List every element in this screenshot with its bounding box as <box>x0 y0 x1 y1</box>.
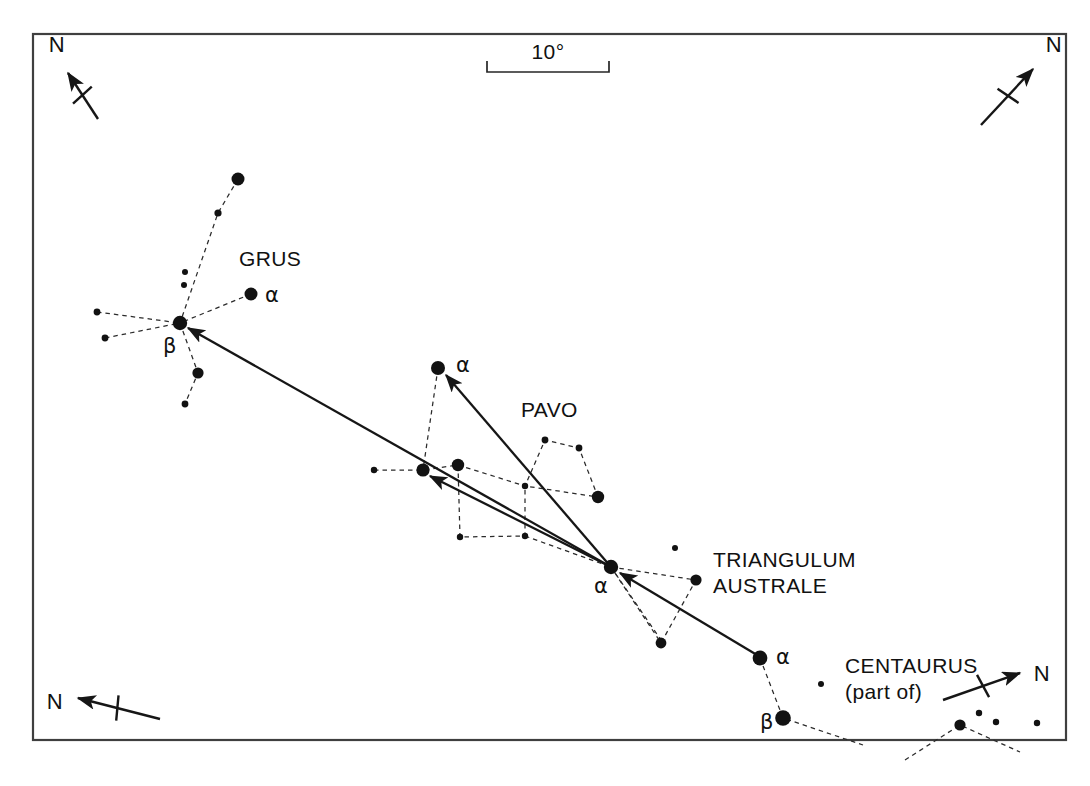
star-gru-tiny1 <box>182 269 188 275</box>
label-alpha-grus: α <box>265 283 279 307</box>
label-australe: AUSTRALE <box>713 574 827 597</box>
compass-top-left-label: N <box>49 32 65 57</box>
compass-top-right-arrow-icon <box>981 69 1033 125</box>
star-cen-e3 <box>993 719 999 725</box>
star-pav-hub <box>416 463 429 476</box>
scale-bar: 10° <box>487 40 609 72</box>
stars <box>94 173 1041 731</box>
scale-bar-label: 10° <box>532 40 565 63</box>
star-pav-q2 <box>576 445 583 452</box>
star-pav-hub2 <box>452 459 464 471</box>
label-beta-centaurus: β <box>760 710 774 734</box>
star-gru-south1 <box>192 367 203 378</box>
star-gru-beta <box>173 316 187 330</box>
star-pav-alpha <box>431 361 445 375</box>
star-gru-west1 <box>94 309 101 316</box>
star-cen-small1 <box>818 681 824 687</box>
star-chart-figure: 10° NNNN GRUSPAVOTRIANGULUMAUSTRALECENTA… <box>0 0 1090 786</box>
compass-top-right-tick <box>998 89 1019 103</box>
constellation-line-centaurus-12 <box>905 725 1020 760</box>
star-pav-q1 <box>542 437 549 444</box>
star-gru-alpha <box>245 288 258 301</box>
label-beta-grus: β <box>163 334 177 358</box>
star-gru-tiny2 <box>181 282 187 288</box>
star-gru-west2 <box>102 335 109 342</box>
pointer-vectors <box>188 328 757 655</box>
chart-labels: GRUSPAVOTRIANGULUMAUSTRALECENTAURUS(part… <box>163 247 978 734</box>
star-cen-alpha <box>753 651 768 666</box>
star-cen-e2 <box>976 710 982 716</box>
star-cen-e1 <box>954 719 965 730</box>
vector-tra-to-pav-hub <box>430 476 611 567</box>
constellation-line-grus-0 <box>180 179 238 323</box>
star-pav-q3 <box>592 491 604 503</box>
compass-top-left-tick <box>73 87 92 104</box>
chart-frame <box>33 34 1066 740</box>
label-centaurus: CENTAURUS <box>845 654 978 677</box>
sky-canvas: 10° NNNN GRUSPAVOTRIANGULUMAUSTRALECENTA… <box>0 0 1090 786</box>
star-tra-small <box>672 545 678 551</box>
label-alpha-centaurus: α <box>776 645 790 669</box>
compass-bottom-right-arrow-icon <box>943 673 1020 700</box>
constellation-line-grus-4 <box>180 323 198 404</box>
star-gru-top <box>232 173 245 186</box>
compass-bottom-right-tick <box>977 675 989 697</box>
constellation-line-centaurus-13 <box>611 567 663 643</box>
star-tra-b <box>690 574 701 585</box>
label-alpha-triangulum: α <box>594 574 608 598</box>
label-grus: GRUS <box>239 247 301 270</box>
star-pav-s1 <box>457 534 463 540</box>
star-gru-south2 <box>182 401 189 408</box>
compass-top-right-label: N <box>1046 32 1062 57</box>
constellation-line-grus-1 <box>97 312 180 323</box>
label-centaurus-part-of: (part of) <box>845 680 922 703</box>
star-cen-e4 <box>1034 720 1040 726</box>
label-triangulum: TRIANGULUM <box>713 548 856 571</box>
star-cen-beta <box>775 710 791 726</box>
star-pav-s2 <box>522 533 528 539</box>
star-gru-chain1 <box>214 209 221 216</box>
constellation-line-triangulum-australe-10 <box>611 567 696 643</box>
compass-bottom-right-label: N <box>1034 661 1050 686</box>
compass-bottom-left-tick <box>116 695 118 720</box>
vector-tra-to-grus-beta <box>188 328 611 567</box>
constellation-line-pavo-5 <box>423 368 438 470</box>
star-pav-w1 <box>371 467 377 473</box>
constellation-line-pavo-6 <box>374 465 458 470</box>
star-tra-alpha <box>604 560 618 574</box>
star-pav-cross <box>522 483 528 489</box>
compass-bottom-left-label: N <box>47 689 63 714</box>
label-alpha-pavo: α <box>456 353 470 377</box>
constellation-line-grus-3 <box>180 294 251 323</box>
star-tra-c <box>656 638 667 649</box>
label-pavo: PAVO <box>521 398 578 421</box>
